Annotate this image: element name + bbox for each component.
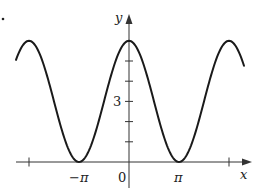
function-graph: y x 3 0 −π π — [0, 0, 258, 194]
y-axis-label: y — [114, 10, 123, 25]
x-tick-label-pi: π — [173, 170, 183, 185]
x-axis — [16, 158, 252, 167]
y-tick-label-3: 3 — [113, 94, 121, 109]
x-tick-label-neg-pi: −π — [69, 170, 89, 185]
y-axis-arrow-icon — [126, 14, 133, 24]
bullet-dot — [2, 18, 5, 21]
x-axis-arrow-icon — [242, 159, 252, 166]
x-axis-label: x — [240, 167, 248, 182]
origin-label: 0 — [118, 170, 126, 185]
